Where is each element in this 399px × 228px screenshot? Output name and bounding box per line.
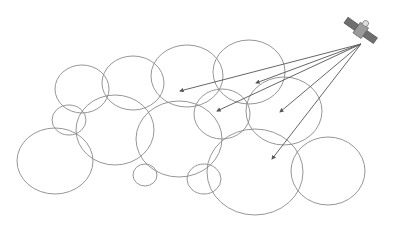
coverage-footprint xyxy=(187,164,221,194)
coverage-footprint xyxy=(136,101,222,177)
coverage-footprint xyxy=(151,45,223,107)
coverage-footprint xyxy=(194,89,250,139)
coverage-footprint xyxy=(291,137,365,205)
satellite-icon xyxy=(342,11,382,46)
coverage-footprint xyxy=(102,56,164,110)
diagram-svg xyxy=(0,0,399,228)
coverage-footprint xyxy=(246,77,322,145)
beam-arrow xyxy=(217,44,361,111)
coverage-footprint xyxy=(213,40,285,104)
coverage-footprint xyxy=(207,129,303,215)
satellite-coverage-diagram xyxy=(0,0,399,228)
coverage-footprint xyxy=(133,164,157,186)
beam-arrow xyxy=(256,44,361,83)
beam-arrow xyxy=(180,44,361,91)
coverage-footprint xyxy=(17,128,93,194)
